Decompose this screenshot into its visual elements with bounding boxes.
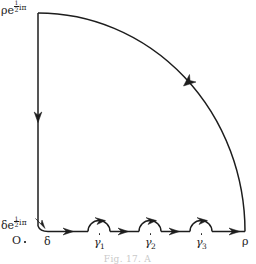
label-delta-exponent: 12iπ [14, 218, 27, 227]
label-rho-axis: ρ [242, 236, 248, 247]
label-delta-base: δe [1, 219, 14, 232]
gamma-2-dot-marker [150, 233, 152, 235]
label-gamma-1: γ1 [94, 236, 105, 249]
exponent-fraction-half: 12 [14, 0, 19, 12]
label-delta-exp-half-i-pi: δe12iπ [1, 220, 256, 233]
gamma-2-subscript: 2 [151, 242, 156, 251]
arrowhead-outer-arc [184, 75, 197, 87]
exponent-fraction-half-2: 12 [14, 216, 19, 228]
outer-quarter-arc [38, 13, 245, 232]
gamma-3-subscript: 3 [202, 242, 207, 251]
label-delta-axis: δ [44, 236, 51, 247]
gamma-3-dot-marker [201, 233, 203, 235]
label-rho-exponent: 12iπ [14, 3, 27, 12]
label-rho-exp-half-i-pi: ρe12iπ [1, 5, 256, 18]
exponent-i-pi: iπ [19, 3, 27, 12]
fraction-denominator: 2 [14, 7, 19, 13]
label-rho-base: ρe [1, 4, 14, 17]
figure-caption: Fig. 17. A [0, 254, 255, 264]
exponent-i-pi-2: iπ [19, 218, 27, 227]
label-origin-O: O [12, 235, 21, 246]
origin-dot-marker [24, 241, 26, 243]
label-gamma-3: γ3 [196, 236, 207, 249]
gamma-1-dot-marker [99, 233, 101, 235]
label-gamma-2: γ2 [145, 236, 156, 249]
gamma-1-subscript: 1 [100, 242, 105, 251]
fraction-denominator-2: 2 [14, 222, 19, 228]
